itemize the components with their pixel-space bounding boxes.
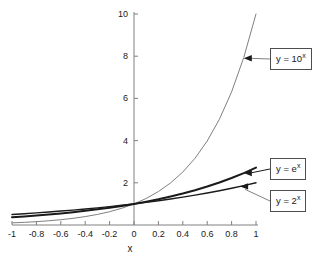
plot-area: [0, 0, 326, 261]
arrowhead-0: [244, 55, 252, 61]
exponential-functions-chart: -1-0.8-0.6-0.4-0.200.20.40.60.81246810 x…: [0, 0, 326, 261]
y-tick-label-0: 2: [102, 178, 128, 188]
leader-line-0: [250, 58, 270, 59]
annotation-label-ex: y = ex: [270, 158, 306, 180]
x-tick-label-10: 1: [242, 229, 270, 239]
x-axis-title: x: [118, 243, 142, 254]
exponent-1: x: [297, 162, 301, 169]
exponent-0: x: [302, 52, 306, 59]
leader-line-2: [245, 189, 270, 201]
annotation-text-2x: y = 2x: [276, 195, 300, 206]
arrowhead-2: [240, 183, 248, 189]
y-tick-label-1: 4: [102, 136, 128, 146]
annotation-label-10x: y = 10x: [270, 48, 312, 70]
annotation-text-10x: y = 10x: [276, 53, 306, 64]
annotation-leader-lines: [240, 55, 270, 201]
annotation-label-2x: y = 2x: [270, 190, 306, 212]
y-tick-label-2: 6: [102, 93, 128, 103]
axis-lines: [12, 12, 258, 225]
exponent-2: x: [297, 194, 301, 201]
y-tick-label-3: 8: [102, 51, 128, 61]
annotation-text-ex: y = ex: [276, 163, 300, 174]
y-tick-label-4: 10: [102, 9, 128, 19]
